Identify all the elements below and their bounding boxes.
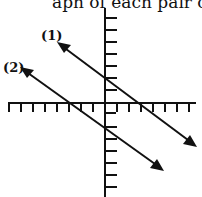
line-2-label: (2)	[3, 60, 24, 75]
coordinate-plane	[0, 0, 202, 197]
x-axis-ticks	[9, 103, 189, 113]
line-2	[28, 73, 155, 164]
line-1-label: (1)	[41, 28, 62, 43]
line-1	[66, 49, 188, 140]
